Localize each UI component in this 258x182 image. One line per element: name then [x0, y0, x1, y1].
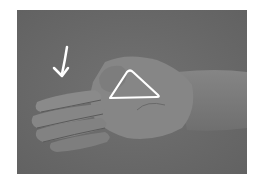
hand-illustration — [17, 10, 247, 174]
hand-photo — [17, 10, 247, 174]
